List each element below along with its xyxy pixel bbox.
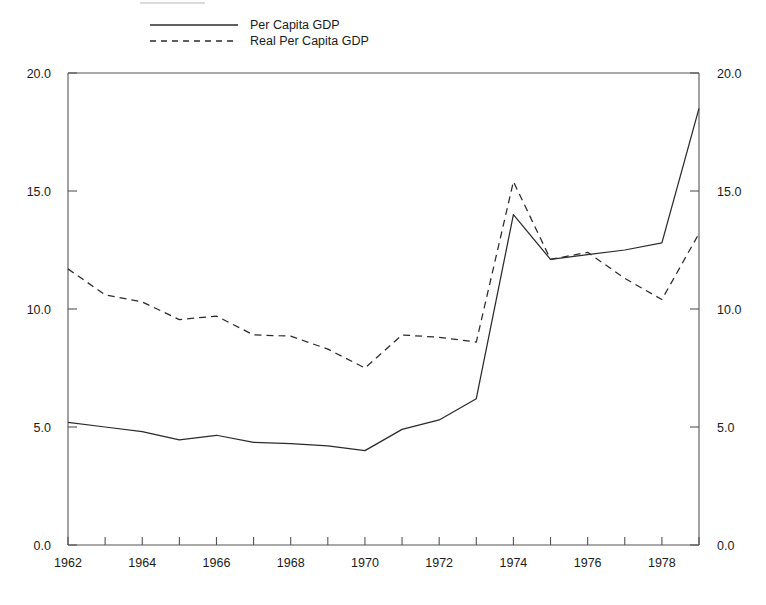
x-axis-label-1972: 1972 — [425, 556, 453, 570]
y-axis-labels-left: 0.05.010.015.020.0 — [27, 67, 51, 553]
y-axis-label-left-20: 20.0 — [27, 67, 51, 81]
y-axis-ticks-right — [690, 73, 699, 545]
legend: Per Capita GDP Real Per Capita GDP — [150, 18, 369, 48]
x-axis-label-1978: 1978 — [648, 556, 676, 570]
y-axis-label-left-15: 15.0 — [27, 185, 51, 199]
x-axis-label-1976: 1976 — [574, 556, 602, 570]
x-axis-label-1966: 1966 — [203, 556, 231, 570]
y-axis-label-left-5: 5.0 — [34, 421, 51, 435]
x-axis-label-1968: 1968 — [277, 556, 305, 570]
plot-frame — [68, 73, 699, 545]
x-axis-label-1970: 1970 — [351, 556, 379, 570]
legend-label-per-capita-gdp: Per Capita GDP — [250, 18, 340, 32]
x-axis-label-1964: 1964 — [128, 556, 156, 570]
x-axis-labels: 196219641966196819701972197419761978 — [54, 556, 676, 570]
y-axis-ticks-left — [68, 73, 77, 545]
y-axis-label-left-10: 10.0 — [27, 303, 51, 317]
x-axis-label-1974: 1974 — [500, 556, 528, 570]
chart-figure: Per Capita GDP Real Per Capita GDP 0.05.… — [0, 0, 766, 605]
y-axis-label-right-5: 5.0 — [717, 421, 734, 435]
y-axis-label-right-15: 15.0 — [717, 185, 741, 199]
y-axis-label-right-20: 20.0 — [717, 67, 741, 81]
series-line-real-per-capita-gdp — [68, 182, 699, 368]
series-line-per-capita-gdp — [68, 108, 699, 450]
line-chart: Per Capita GDP Real Per Capita GDP 0.05.… — [0, 0, 766, 605]
y-axis-label-right-0: 0.0 — [717, 539, 734, 553]
y-axis-label-left-0: 0.0 — [34, 539, 51, 553]
x-axis-ticks — [68, 537, 699, 545]
y-axis-label-right-10: 10.0 — [717, 303, 741, 317]
y-axis-labels-right: 0.05.010.015.020.0 — [717, 67, 741, 553]
legend-label-real-per-capita-gdp: Real Per Capita GDP — [250, 34, 369, 48]
x-axis-label-1962: 1962 — [54, 556, 82, 570]
